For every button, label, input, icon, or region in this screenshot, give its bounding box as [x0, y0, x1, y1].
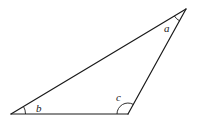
side-ca — [128, 9, 186, 114]
angle-label-c: c — [116, 91, 121, 103]
angle-arc-b — [24, 107, 26, 115]
angle-label-b: b — [36, 102, 42, 114]
side-ab — [11, 9, 186, 114]
angle-arc-a — [174, 16, 179, 21]
angle-label-a: a — [164, 22, 170, 34]
triangle-diagram: a b c — [0, 0, 198, 135]
triangle — [11, 9, 186, 114]
